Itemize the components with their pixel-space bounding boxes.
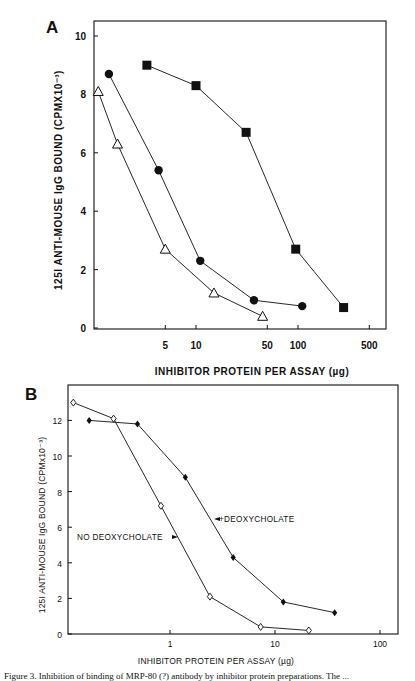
figure-caption: Figure 3. Inhibition of binding of MRP-8… (4, 671, 414, 681)
y-tick-label: 10 (53, 452, 63, 462)
x-axis-label: INHIBITOR PROTEIN PER ASSAY (µg) (138, 656, 294, 666)
y-tick-label: 0 (57, 630, 62, 640)
x-tick-label: 10 (270, 639, 280, 649)
annotation-no-deoxycholate: NO DEOXYCHOLATE (77, 533, 163, 542)
filled-diamond-marker (87, 417, 92, 424)
y-tick-label: 6 (57, 523, 62, 533)
y-axis-label: 125I ANTI-MOUSE IgG BOUND (CPMx10⁻³) (37, 437, 47, 614)
y-tick-label: 8 (57, 488, 62, 498)
y-tick-label: 4 (57, 559, 62, 569)
open-diamond-marker (306, 627, 311, 634)
annotation-plus-deoxycholate: +DEOXYCHOLATE (219, 515, 295, 524)
open-diamond-marker (71, 399, 76, 406)
x-tick-label: 1 (168, 639, 173, 649)
series-line (89, 420, 334, 612)
series-1 (87, 417, 338, 616)
y-tick-label: 2 (57, 594, 62, 604)
x-tick-label: 100 (373, 639, 387, 649)
filled-diamond-marker (332, 609, 337, 616)
filled-diamond-marker (281, 598, 286, 605)
y-tick-label: 12 (53, 416, 63, 426)
open-diamond-marker (258, 623, 263, 630)
